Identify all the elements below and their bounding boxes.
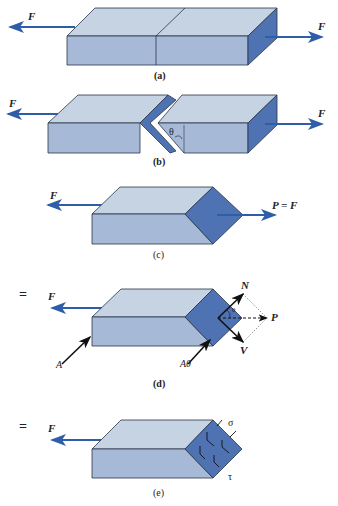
panel-b-left-force-label: F	[9, 97, 16, 109]
panel-e-left-force-label: F	[48, 422, 55, 434]
panel-d-caption: (d)	[153, 378, 165, 389]
panel-c-caption: (c)	[153, 249, 164, 260]
panel-d-shear-force-label: V	[240, 344, 247, 356]
panel-a-left-force-label: F	[28, 10, 35, 22]
panel-b-bar	[8, 95, 322, 153]
panel-e-equals-sign: =	[19, 419, 27, 435]
panel-b-angle-label: θ	[169, 126, 174, 137]
panel-d-angle-label: θ	[232, 306, 235, 314]
panel-b-caption: (b)	[153, 156, 165, 167]
panel-a-right-force-label: F	[318, 20, 325, 32]
panel-e-bar	[52, 420, 242, 478]
panel-e-caption: (e)	[153, 487, 164, 498]
panel-d-bar	[52, 289, 267, 364]
panel-d-resultant-label: P	[271, 311, 278, 323]
panel-c-bar	[48, 187, 275, 244]
panel-b-right-force-label: F	[318, 107, 325, 119]
panel-d-normal-force-label: N	[241, 279, 249, 291]
panel-a-bar	[10, 8, 322, 65]
panel-c-right-force-label: P = F	[272, 199, 297, 211]
panel-d-left-force-label: F	[48, 290, 55, 302]
panel-d-equals-sign: =	[19, 287, 27, 303]
panel-a-caption: (a)	[154, 70, 166, 81]
panel-d-area-theta-label: Aθ	[180, 358, 191, 369]
panel-d-area-label: A	[56, 359, 62, 370]
panel-e-shear-stress-label: τ	[228, 471, 232, 482]
panel-e-normal-stress-label: σ	[228, 417, 233, 428]
panel-c-left-force-label: F	[50, 189, 57, 201]
